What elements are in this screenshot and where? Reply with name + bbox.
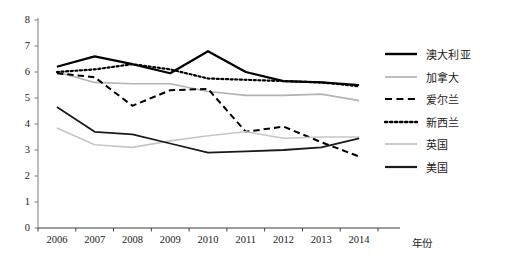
legend-item-2[interactable]: 爱尔兰 [384, 88, 506, 111]
legend-swatch-icon [384, 48, 418, 60]
legend-item-4[interactable]: 英国 [384, 133, 506, 156]
x-axis-title: 年份 [412, 235, 432, 250]
legend-label: 澳大利亚 [426, 46, 471, 62]
series-line-1 [57, 72, 359, 101]
legend-swatch-icon [384, 116, 418, 128]
series-line-4 [57, 128, 359, 147]
chart-legend: 澳大利亚加拿大爱尔兰新西兰英国美国 [384, 43, 506, 178]
y-tick-label: 0 [8, 223, 30, 234]
y-tick-label: 7 [8, 41, 30, 52]
x-tick-label: 2013 [301, 235, 341, 246]
x-tick-label: 2011 [226, 235, 266, 246]
legend-item-0[interactable]: 澳大利亚 [384, 43, 506, 66]
x-tick-label: 2008 [112, 235, 152, 246]
x-tick-label: 2014 [339, 235, 379, 246]
legend-label: 加拿大 [426, 69, 460, 85]
legend-label: 美国 [426, 159, 448, 175]
y-tick-label: 5 [8, 93, 30, 104]
legend-swatch-icon [384, 161, 418, 173]
legend-swatch-icon [384, 71, 418, 83]
x-tick-label: 2007 [75, 235, 115, 246]
y-tick-label: 6 [8, 67, 30, 78]
x-tick-label: 2010 [188, 235, 228, 246]
y-tick-label: 2 [8, 171, 30, 182]
legend-item-1[interactable]: 加拿大 [384, 66, 506, 89]
y-tick-label: 8 [8, 15, 30, 26]
legend-label: 英国 [426, 136, 448, 152]
line-chart: 876543210 200620072008200920102011201220… [0, 0, 506, 266]
legend-label: 爱尔兰 [426, 91, 460, 107]
x-tick-label: 2009 [150, 235, 190, 246]
legend-item-5[interactable]: 美国 [384, 156, 506, 179]
x-tick-label: 2012 [264, 235, 304, 246]
y-tick-label: 1 [8, 197, 30, 208]
y-tick-label: 4 [8, 119, 30, 130]
legend-label: 新西兰 [426, 114, 460, 130]
legend-swatch-icon [384, 138, 418, 150]
y-tick-label: 3 [8, 145, 30, 156]
legend-item-3[interactable]: 新西兰 [384, 111, 506, 134]
series-line-2 [57, 73, 359, 156]
legend-swatch-icon [384, 93, 418, 105]
x-tick-label: 2006 [37, 235, 77, 246]
